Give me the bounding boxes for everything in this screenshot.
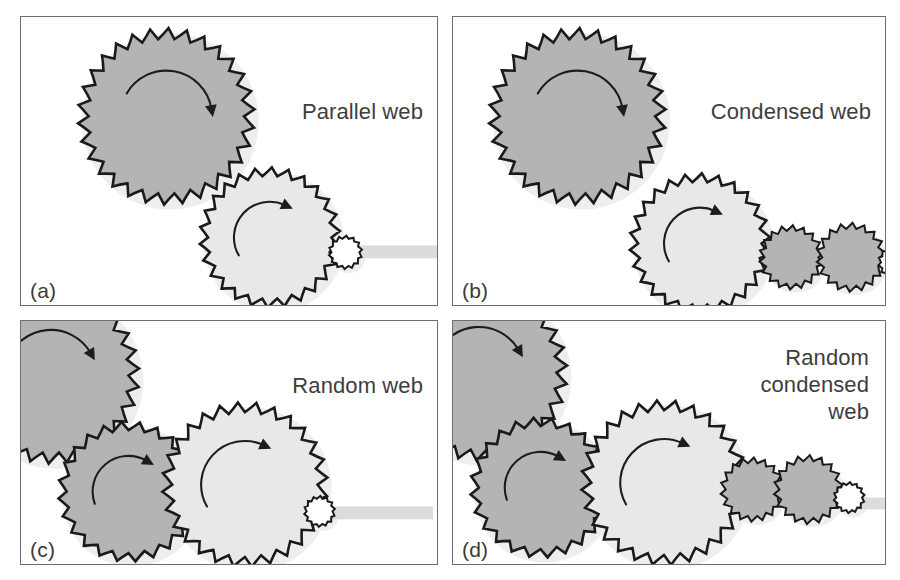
web-strip — [322, 506, 433, 519]
panel-a: Parallel web(a) — [20, 16, 438, 306]
panel-caption-d: Random condensed web — [760, 345, 869, 425]
gear-train-illustration — [453, 17, 885, 305]
gear-train-illustration — [21, 17, 437, 305]
panel-d: Random condensed web(d) — [452, 320, 886, 565]
driven-gear — [162, 402, 327, 564]
panel-c: Random web(c) — [20, 320, 438, 565]
panel-index-label-b: (b) — [462, 280, 488, 301]
panel-index-label-c: (c) — [30, 539, 55, 560]
gear-body — [162, 402, 327, 564]
panel-caption-a: Parallel web — [302, 99, 423, 126]
panel-b: Condensed web(b) — [452, 16, 886, 306]
panel-caption-b: Condensed web — [711, 99, 871, 126]
panel-index-label-d: (d) — [462, 539, 488, 560]
gear-train-illustration — [21, 321, 437, 564]
web-strip — [349, 245, 437, 258]
panel-index-label-a: (a) — [30, 280, 56, 301]
panel-caption-c: Random web — [292, 373, 423, 400]
figure-canvas: Parallel web(a)Condensed web(b)Random we… — [0, 0, 900, 580]
